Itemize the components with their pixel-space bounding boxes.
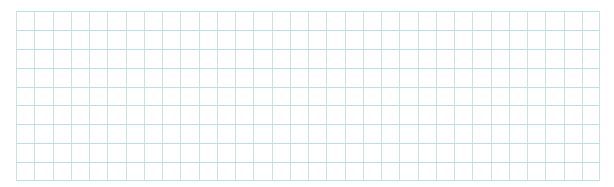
- empty-grid: [16, 11, 600, 181]
- grid-lines: [16, 11, 600, 181]
